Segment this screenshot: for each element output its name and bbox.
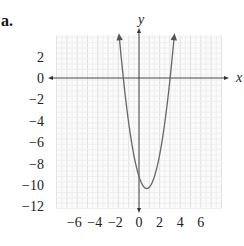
svg-text:y: y — [136, 12, 145, 27]
svg-text:6: 6 — [197, 215, 204, 230]
svg-text:2: 2 — [156, 215, 163, 230]
svg-text:−4: −4 — [29, 114, 44, 129]
svg-text:−12: −12 — [22, 199, 44, 214]
svg-text:−10: −10 — [22, 178, 44, 193]
svg-text:−2: −2 — [29, 92, 44, 107]
svg-text:−8: −8 — [29, 157, 44, 172]
svg-text:−6: −6 — [29, 135, 44, 150]
coordinate-plane: xy 20−2−4−6−8−10−12−6−4−20246 — [0, 0, 244, 246]
svg-text:4: 4 — [177, 215, 184, 230]
svg-text:−4: −4 — [87, 215, 102, 230]
svg-text:2: 2 — [37, 50, 44, 65]
svg-text:0: 0 — [37, 71, 44, 86]
svg-text:0: 0 — [136, 215, 143, 230]
svg-text:x: x — [235, 70, 243, 85]
svg-text:−2: −2 — [108, 215, 123, 230]
svg-text:−6: −6 — [67, 215, 82, 230]
